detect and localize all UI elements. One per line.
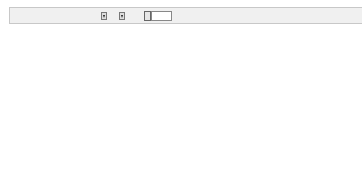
help-dropdown-2[interactable] bbox=[119, 12, 125, 20]
control-bar bbox=[9, 7, 362, 24]
help-dropdown-1[interactable] bbox=[101, 12, 107, 20]
stroke-weight-field[interactable] bbox=[151, 11, 172, 21]
stroke-stepper[interactable] bbox=[144, 11, 151, 21]
